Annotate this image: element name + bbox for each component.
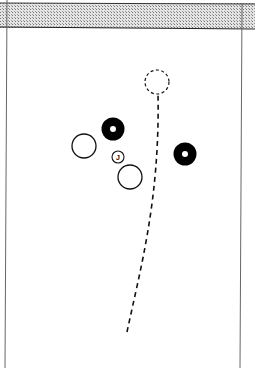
white-bowl [72, 134, 96, 158]
white-bowl [118, 165, 142, 189]
right-boundary-line [240, 3, 242, 368]
jack-label: J [116, 154, 120, 161]
jack: J [112, 151, 124, 163]
left-boundary-line [5, 0, 7, 368]
black-bowl [102, 118, 125, 141]
ditch [0, 3, 255, 29]
target-position-circle [145, 70, 169, 94]
bowl-path [127, 94, 158, 332]
black-bowl [174, 143, 197, 166]
bowls-diagram: J [0, 0, 255, 368]
